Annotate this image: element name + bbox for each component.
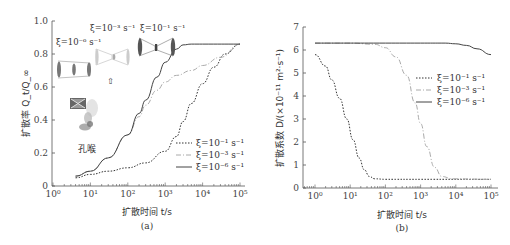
annotation-labels-a: ξ=10⁻⁶ s⁻¹ ξ=10⁻³ s⁻¹ ξ=10⁻¹ s⁻¹ [56, 23, 185, 47]
legend-a-xi6: ξ=10⁻⁶ s⁻¹ [196, 162, 244, 172]
legend-a-xi3: ξ=10⁻³ s⁻¹ [196, 150, 244, 160]
legend-a: ξ=10⁻¹ s⁻¹ ξ=10⁻³ s⁻¹ ξ=10⁻⁶ s⁻¹ [176, 138, 244, 172]
pore-throat-diagram-xi1 [138, 38, 175, 56]
legend-b: ξ=10⁻¹ s⁻¹ ξ=10⁻³ s⁻¹ ξ=10⁻⁶ s⁻¹ [416, 73, 485, 107]
x-tick-label: 10⁵ [483, 191, 498, 201]
legend-b-xi6: ξ=10⁻⁶ s⁻¹ [437, 97, 485, 107]
x-axis-ticks-a: 10⁰10¹10²10³10⁴10⁵ [45, 183, 247, 200]
y-tick-label: 0 [293, 183, 299, 193]
y-tick-label: 3 [293, 114, 299, 124]
x-axis-title-b: 扩散时间 t/s [377, 209, 427, 220]
x-tick-label: 10⁰ [45, 189, 60, 199]
y-tick-label: 6 [293, 45, 299, 55]
up-arrow-icon: ⇧ [107, 76, 114, 86]
pore-throat-label: 孔喉 [78, 143, 96, 154]
chart-a: 00.20.40.60.81.0 10⁰10¹10²10³10⁴10⁵ [20, 16, 248, 231]
y-tick-label: 0.8 [34, 49, 49, 59]
x-tick-label: 10⁴ [195, 189, 210, 199]
curves-b [315, 43, 491, 179]
y-tick-label: 0.2 [34, 148, 48, 158]
x-tick-label: 10⁴ [448, 191, 463, 201]
y-tick-label: 1 [293, 160, 299, 170]
y-tick-label: 0.4 [34, 115, 49, 125]
x-tick-label: 10³ [158, 189, 173, 199]
annotation-xi6: ξ=10⁻⁶ s⁻¹ [56, 37, 101, 47]
x-tick-label: 10¹ [343, 191, 358, 201]
y-tick-label: 1.0 [34, 16, 49, 26]
x-tick-label: 10³ [413, 191, 428, 201]
x-tick-label: 10² [378, 191, 393, 201]
x-axis-title-a: 扩散时间 t/s [122, 206, 172, 217]
x-tick-label: 10² [120, 189, 135, 199]
figure-canvas: 00.20.40.60.81.0 10⁰10¹10²10³10⁴10⁵ [0, 0, 510, 245]
y-tick-label: 4 [293, 91, 299, 101]
plot-b-axes [303, 27, 498, 188]
throat-box-icon [70, 98, 86, 109]
y-tick-label: 0.6 [34, 82, 49, 92]
pore-throat-diagram-xi6 [57, 61, 91, 78]
y-axis-title-b: 扩散系数 D/(×10⁻¹¹ m²·s⁻¹) [274, 49, 285, 167]
y-tick-label: 5 [293, 68, 299, 78]
pore-illustrations: ⇧ 孔喉 [57, 38, 175, 154]
y-axis-title-a: 扩散率 Q_t/Q_∞ [20, 69, 31, 136]
caption-b: (b) [396, 223, 409, 233]
annotation-xi3: ξ=10⁻³ s⁻¹ [90, 23, 135, 33]
x-tick-label: 10⁵ [232, 189, 247, 199]
x-axis-ticks-b: 10⁰10¹10²10³10⁴10⁵ [304, 185, 499, 202]
x-tick-label: 10¹ [83, 189, 98, 199]
legend-b-xi1: ξ=10⁻¹ s⁻¹ [437, 73, 485, 83]
chart-b: 01234567 10⁰10¹10²10³10⁴10⁵ ξ=10⁻¹ s⁻¹ ξ… [274, 22, 499, 233]
y-tick-label: 2 [293, 137, 299, 147]
caption-a: (a) [141, 221, 153, 231]
pore-throat-diagram-xi3 [95, 49, 129, 65]
x-tick-label: 10⁰ [307, 191, 322, 201]
legend-a-xi1: ξ=10⁻¹ s⁻¹ [196, 138, 244, 148]
curve-dashdot [315, 43, 491, 179]
y-axis-ticks-b: 01234567 [293, 22, 306, 193]
curve-solid [315, 43, 491, 55]
legend-b-xi3: ξ=10⁻³ s⁻¹ [437, 85, 485, 95]
annotation-xi1: ξ=10⁻¹ s⁻¹ [140, 23, 185, 33]
y-tick-label: 7 [293, 22, 299, 32]
